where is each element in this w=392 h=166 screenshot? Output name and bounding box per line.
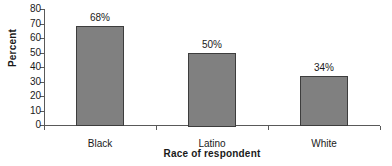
plot-area: 01020304050607080 68%50%34% BlackLatinoW… [44,9,380,125]
bar-chart: Percent 01020304050607080 68%50%34% Blac… [0,0,392,166]
x-axis-title: Race of respondent [44,147,380,160]
y-tick-label: 30 [30,75,41,88]
y-tick-label: 80 [30,2,41,15]
y-tick-label: 0 [35,118,41,131]
y-tick-label: 50 [30,46,41,59]
bar[interactable] [76,26,124,126]
y-axis-line [44,9,45,126]
x-tick-mark [156,126,157,130]
bar[interactable] [300,76,348,126]
y-tick-label: 70 [30,17,41,30]
bar-value-label: 68% [60,12,140,24]
x-tick-mark [268,126,269,130]
x-tick-mark [380,126,381,130]
bar-value-label: 34% [284,62,364,74]
y-tick-label: 20 [30,89,41,102]
y-axis-title: Percent [6,13,20,83]
y-tick-label: 10 [30,104,41,117]
x-tick-mark [44,126,45,130]
bar[interactable] [188,53,236,127]
y-tick-label: 40 [30,60,41,73]
y-tick-label: 60 [30,31,41,44]
bar-value-label: 50% [172,39,252,51]
